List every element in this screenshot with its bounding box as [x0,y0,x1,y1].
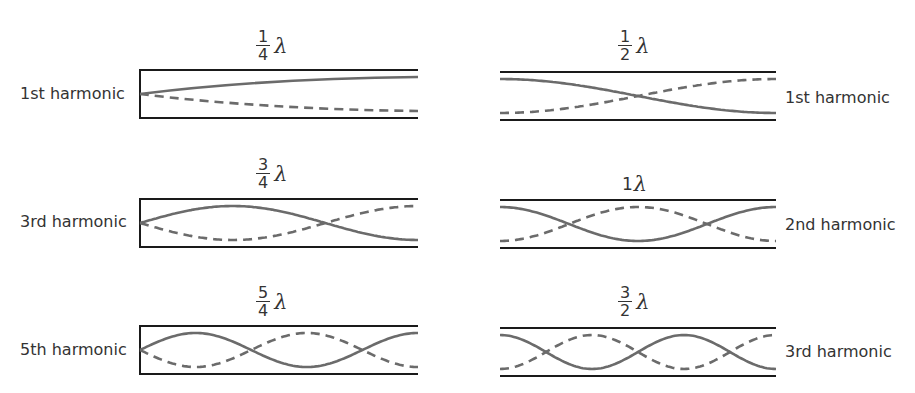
open-3-length-label: 32 λ [618,284,650,319]
denominator: 4 [258,302,268,319]
closed-pipe-5 [140,326,418,374]
wave-dashed [140,94,418,111]
open-1-harmonic-label: 1st harmonic [785,88,890,107]
lambda-symbol: λ [636,34,649,58]
open-pipe-3 [500,328,776,376]
standing-wave-diagram [0,0,915,393]
lambda-symbol: λ [634,172,647,196]
denominator: 4 [258,46,268,63]
numerator: 1 [256,28,270,46]
denominator: 2 [620,302,630,319]
open-1-length-label: 12 λ [618,28,650,63]
lambda-symbol: λ [636,290,649,314]
closed-1-length-label: 14 λ [256,28,288,63]
numerator: 1 [618,28,632,46]
closed-pipe-3 [140,199,418,247]
closed-5-length-label: 54 λ [256,284,288,319]
open-2-length-label: 1 λ [622,172,647,196]
closed-5-harmonic-label: 5th harmonic [20,340,127,359]
lambda-symbol: λ [274,162,287,186]
wave-solid [500,207,776,241]
wave-dashed [500,207,776,241]
closed-3-length-label: 34 λ [256,156,288,191]
open-3-harmonic-label: 3rd harmonic [785,342,892,361]
wave-solid [140,333,418,367]
open-2-harmonic-label: 2nd harmonic [785,215,896,234]
numerator: 5 [256,284,270,302]
lambda-symbol: λ [274,34,287,58]
lambda-symbol: λ [274,290,287,314]
denominator: 2 [620,46,630,63]
open-pipe-1 [500,72,776,120]
wave-dashed [500,79,776,113]
open-pipe-2 [500,200,776,248]
wave-solid [500,335,776,369]
whole-number: 1 [622,174,633,194]
closed-3-harmonic-label: 3rd harmonic [20,212,127,231]
wave-solid [140,77,418,94]
numerator: 3 [618,284,632,302]
closed-1-harmonic-label: 1st harmonic [20,84,125,103]
denominator: 4 [258,174,268,191]
numerator: 3 [256,156,270,174]
closed-pipe-1 [140,70,418,118]
